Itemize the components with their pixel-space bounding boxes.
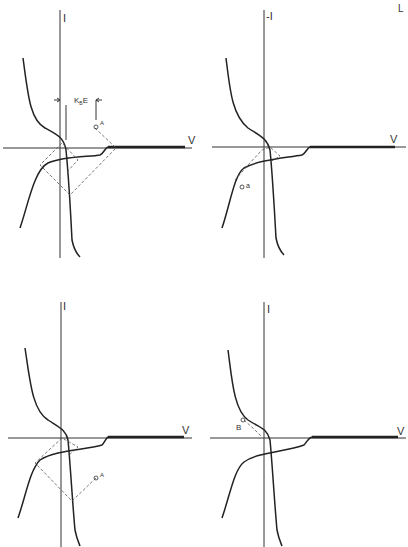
y-axis-label: -I: [266, 10, 273, 22]
x-axis-label: V: [182, 424, 190, 436]
x-axis-label: V: [188, 134, 196, 146]
iv-diagram: L I V KBE A -I V a I V: [0, 0, 408, 547]
x-axis-label: V: [397, 425, 405, 437]
panel-top-right: -I V a: [212, 10, 406, 258]
dimension-arrow-left: [54, 98, 60, 102]
dimension-arrow-right: [96, 98, 102, 102]
y-axis-label: I: [63, 12, 66, 24]
point-a-label: A: [100, 472, 104, 478]
curve-a: [226, 58, 284, 255]
point-b-label: B: [236, 423, 241, 432]
panel-bottom-left: I V A: [8, 300, 192, 547]
curve-b: [20, 147, 185, 228]
x-axis-label: V: [390, 133, 398, 145]
curve-b: [222, 437, 398, 518]
point-a-label: A: [100, 120, 104, 126]
dimension-label: KBE: [74, 96, 88, 106]
y-axis-label: I: [267, 303, 270, 315]
corner-mark: L: [398, 3, 404, 14]
point-a-label: a: [246, 182, 250, 189]
point-a-marker: [94, 125, 98, 129]
y-axis-label: I: [63, 300, 66, 312]
curve-a: [25, 348, 80, 546]
point-a-marker: [240, 185, 244, 189]
curve-a: [228, 350, 282, 546]
panel-bottom-right: I V B: [210, 302, 406, 547]
panel-top-left: I V KBE A: [3, 10, 196, 258]
